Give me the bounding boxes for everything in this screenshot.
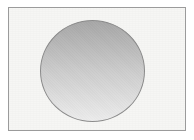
plate-border (8, 7, 186, 131)
shaded-circle (40, 20, 145, 122)
figure-canvas (0, 0, 194, 140)
circle-grain-texture (41, 21, 144, 121)
